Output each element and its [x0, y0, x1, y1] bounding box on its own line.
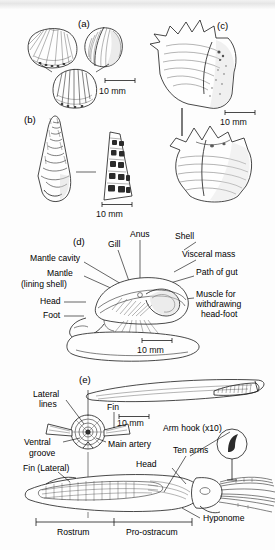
panel-b-label: (b): [24, 114, 36, 125]
scale-b-text: 10 mm: [96, 209, 123, 219]
label-anus: Anus: [130, 230, 150, 239]
label-muscle-1: Muscle for: [196, 290, 236, 299]
belemnite-guard: [86, 380, 264, 402]
label-lines: lines: [39, 400, 57, 409]
label-mantle: Mantle: [47, 269, 73, 278]
gastropod-view-lower: [170, 126, 252, 202]
label-ventral: Ventral: [24, 438, 51, 447]
label-main-artery: Main artery: [108, 440, 151, 449]
label-visceral-mass: Visceral mass: [182, 250, 235, 259]
gastropod-view-upper: [150, 20, 236, 108]
panel-a: (a): [0, 0, 150, 120]
label-muscle-3: head-foot: [201, 310, 237, 319]
brachiopod-view-bottom: [53, 69, 97, 108]
label-gill: Gill: [108, 240, 120, 249]
label-foot: Foot: [43, 311, 60, 320]
belemnite-reconstruction: [25, 475, 275, 513]
brachiopod-view-left: [28, 28, 77, 68]
panel-e-label: (e): [79, 374, 91, 385]
scale-c-text: 10 mm: [220, 117, 247, 127]
measure-bracket: [36, 518, 192, 526]
label-lining-shell: (lining shell): [21, 280, 67, 289]
arm-hook-inset: [217, 429, 247, 480]
label-path-of-gut: Path of gut: [196, 268, 238, 277]
panel-c: (c): [140, 8, 275, 208]
label-fin-lateral: Fin (Lateral): [23, 464, 69, 473]
brachiopod-view-right: [85, 27, 123, 67]
label-head-e: Head: [136, 460, 157, 469]
label-mantle-cavity: Mantle cavity: [30, 254, 80, 263]
turreted-gastropod: [38, 116, 71, 202]
panel-a-label: (a): [78, 18, 90, 29]
panel-c-label: (c): [217, 20, 228, 31]
label-ten-arms: Ten arms: [173, 446, 208, 455]
scale-d-text: 10 mm: [137, 345, 164, 355]
label-muscle-2: withdrawing: [196, 300, 241, 309]
label-fin: Fin: [107, 403, 119, 412]
panel-d-label: (d): [73, 236, 85, 247]
panel-a-drawing: [0, 0, 150, 120]
label-groove: groove: [29, 449, 55, 458]
scale-a-text: 10 mm: [99, 86, 126, 96]
figure-plate: (a): [0, 0, 275, 550]
gastropod-anatomy-drawing: [67, 278, 199, 362]
label-shell: Shell: [175, 232, 194, 241]
shell-section-fragment: [104, 132, 132, 200]
scale-e-text: 10 mm: [117, 418, 144, 428]
arms: [219, 477, 275, 512]
label-lateral: Lateral: [33, 390, 59, 399]
label-hyponome: Hyponome: [203, 514, 245, 523]
label-arm-hook: Arm hook (x10): [163, 424, 222, 433]
panel-d: (d) Anus Shell Gill Visceral mass Mantle…: [0, 228, 275, 373]
scale-bar-a: [103, 76, 139, 86]
label-head: Head: [40, 297, 61, 306]
panel-b: (b): [0, 112, 150, 222]
label-rostrum: Rostrum: [57, 528, 89, 537]
label-pro-ostracum: Pro-ostracum: [126, 528, 178, 537]
panel-e: (e) Lateral lines Fin Ventral groove Mai…: [0, 372, 275, 550]
